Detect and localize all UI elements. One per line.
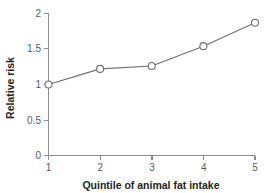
y-tick-label-1-5: 1.5	[27, 43, 41, 54]
x-tick-label-4: 4	[201, 162, 207, 173]
data-point-q5	[252, 19, 259, 26]
relative-risk-line-chart: 0 0.5 1 1.5 2 1 2 3 4 5 Quintile of anim…	[0, 0, 269, 193]
chart-figure: 0 0.5 1 1.5 2 1 2 3 4 5 Quintile of anim…	[0, 0, 269, 193]
data-point-q1	[45, 81, 52, 88]
data-point-q3	[148, 63, 155, 70]
y-axis-title: Relative risk	[4, 57, 16, 119]
x-tick-label-3: 3	[149, 162, 155, 173]
x-tick-label-5: 5	[252, 162, 258, 173]
y-tick-label-0: 0	[35, 150, 41, 161]
y-tick-label-1: 1	[35, 79, 41, 90]
chart-background	[0, 0, 269, 193]
data-point-q4	[200, 43, 207, 50]
x-axis-title: Quintile of animal fat intake	[82, 179, 219, 191]
x-tick-label-2: 2	[97, 162, 103, 173]
y-tick-label-2: 2	[35, 8, 41, 19]
x-tick-label-1: 1	[46, 162, 52, 173]
data-point-q2	[97, 65, 104, 72]
y-tick-label-0-5: 0.5	[27, 115, 41, 126]
